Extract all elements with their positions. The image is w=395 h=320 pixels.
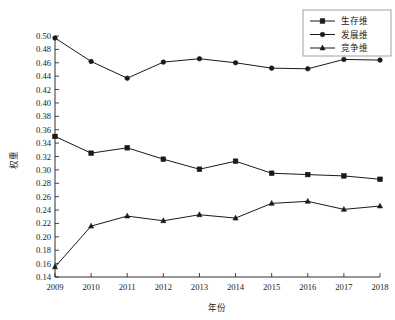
y-tick-label: 0.18 bbox=[36, 245, 51, 255]
y-axis-ticks: 0.140.160.180.200.220.240.260.280.300.32… bbox=[36, 31, 59, 282]
data-point-marker bbox=[161, 60, 166, 65]
y-tick-label: 0.34 bbox=[36, 138, 52, 148]
legend-label: 竞争维 bbox=[341, 42, 368, 53]
series-line bbox=[55, 136, 380, 179]
x-axis-ticks: 2009201020112012201320142015201620172018 bbox=[46, 273, 388, 292]
x-tick-label: 2016 bbox=[299, 282, 317, 292]
x-tick-label: 2018 bbox=[371, 282, 388, 292]
x-tick-label: 2009 bbox=[46, 282, 63, 292]
y-tick-label: 0.38 bbox=[36, 111, 51, 121]
y-tick-label: 0.48 bbox=[36, 44, 51, 54]
data-point-marker bbox=[89, 59, 94, 64]
x-tick-label: 2010 bbox=[83, 282, 100, 292]
y-tick-label: 0.26 bbox=[36, 192, 52, 202]
y-tick-label: 0.22 bbox=[36, 218, 51, 228]
data-point-marker bbox=[197, 167, 202, 172]
data-point-marker bbox=[342, 174, 347, 179]
data-point-marker bbox=[342, 57, 347, 62]
y-tick-label: 0.14 bbox=[36, 272, 52, 282]
data-point-marker bbox=[305, 67, 310, 72]
data-point-marker bbox=[377, 203, 382, 208]
data-point-marker bbox=[378, 58, 383, 63]
y-tick-label: 0.36 bbox=[36, 125, 52, 135]
y-tick-label: 0.50 bbox=[36, 31, 51, 41]
series-1 bbox=[53, 134, 383, 181]
x-tick-label: 2011 bbox=[119, 282, 136, 292]
data-point-marker bbox=[161, 157, 166, 162]
data-point-marker bbox=[125, 213, 130, 218]
x-tick-label: 2014 bbox=[227, 282, 245, 292]
legend-sample-marker bbox=[320, 19, 325, 24]
x-tick-label: 2015 bbox=[263, 282, 280, 292]
x-tick-label: 2017 bbox=[335, 282, 353, 292]
y-tick-label: 0.20 bbox=[36, 232, 51, 242]
legend-label: 发展维 bbox=[341, 29, 368, 40]
y-tick-label: 0.42 bbox=[36, 85, 51, 95]
y-tick-label: 0.16 bbox=[36, 259, 52, 269]
series-line bbox=[55, 201, 380, 267]
data-point-marker bbox=[269, 66, 274, 71]
data-point-marker bbox=[125, 145, 130, 150]
data-point-marker bbox=[53, 36, 58, 41]
y-tick-label: 0.44 bbox=[36, 71, 52, 81]
data-series-group bbox=[52, 36, 382, 269]
legend-sample-marker bbox=[320, 32, 325, 37]
series-3 bbox=[52, 198, 382, 268]
x-tick-label: 2013 bbox=[191, 282, 208, 292]
data-point-marker bbox=[53, 134, 58, 139]
y-tick-label: 0.40 bbox=[36, 98, 51, 108]
x-axis-title: 年份 bbox=[208, 302, 226, 313]
legend-label: 生存维 bbox=[341, 15, 368, 26]
data-point-marker bbox=[89, 151, 94, 156]
data-point-marker bbox=[125, 76, 130, 81]
data-point-marker bbox=[269, 171, 274, 176]
line-chart: 0.140.160.180.200.220.240.260.280.300.32… bbox=[0, 0, 395, 320]
y-tick-label: 0.30 bbox=[36, 165, 51, 175]
chart-canvas: 0.140.160.180.200.220.240.260.280.300.32… bbox=[0, 0, 395, 320]
chart-legend: 生存维发展维竞争维 bbox=[303, 10, 391, 56]
data-point-marker bbox=[233, 159, 238, 164]
y-axis-title: 权重 bbox=[8, 151, 19, 169]
data-point-marker bbox=[197, 56, 202, 61]
y-tick-label: 0.46 bbox=[36, 58, 52, 68]
x-tick-label: 2012 bbox=[155, 282, 172, 292]
data-point-marker bbox=[233, 60, 238, 65]
data-point-marker bbox=[197, 212, 202, 217]
data-point-marker bbox=[305, 172, 310, 177]
y-tick-label: 0.32 bbox=[36, 152, 51, 162]
y-tick-label: 0.28 bbox=[36, 178, 51, 188]
data-point-marker bbox=[305, 198, 310, 203]
y-tick-label: 0.24 bbox=[36, 205, 52, 215]
data-point-marker bbox=[378, 177, 383, 182]
